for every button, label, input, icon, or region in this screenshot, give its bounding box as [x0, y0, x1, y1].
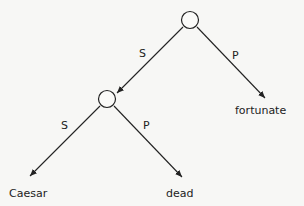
edge-label-root-fortunate: P [232, 49, 239, 62]
edge-label-inner-caesar: S [61, 119, 68, 132]
leaf-label-caesar: Caesar [9, 187, 48, 200]
edge-inner-to-dead [114, 106, 182, 177]
inner-node [99, 91, 116, 108]
edge-label-root-inner: S [139, 47, 146, 60]
edge-inner-to-caesar [30, 106, 100, 176]
root-node [182, 12, 199, 29]
leaf-label-dead: dead [166, 187, 193, 200]
tree-diagram: S P S P fortunate Caesar dead [0, 0, 304, 206]
leaf-label-fortunate: fortunate [235, 104, 286, 117]
edge-label-inner-dead: P [143, 119, 150, 132]
edge-root-to-fortunate [197, 27, 265, 98]
edge-root-to-inner [117, 27, 183, 93]
